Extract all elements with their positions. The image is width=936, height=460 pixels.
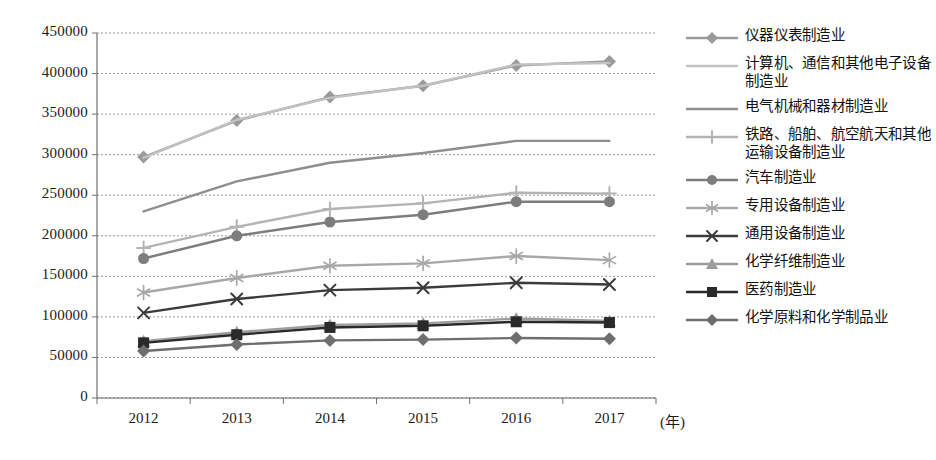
legend-marker-icon <box>686 128 738 146</box>
y-axis-tick-label: 450000 <box>42 23 88 40</box>
legend-label: 仪器仪表制造业 <box>745 26 845 44</box>
legend-item[interactable]: 医药制造业 <box>686 280 936 301</box>
y-axis-tick-label: 250000 <box>42 185 88 202</box>
legend-label: 电气机械和器材制造业 <box>745 97 888 115</box>
x-axis-tick-label: 2014 <box>290 410 370 427</box>
y-axis-ticks <box>92 33 97 398</box>
legend-marker-icon <box>686 100 738 118</box>
legend-item[interactable]: 通用设备制造业 <box>686 224 936 245</box>
legend-label: 铁路、船舶、航空航天和其他运输设备制造业 <box>745 125 936 161</box>
chart-legend: 仪器仪表制造业计算机、通信和其他电子设备制造业电气机械和器材制造业铁路、船舶、航… <box>686 26 936 336</box>
series-5 <box>138 249 616 299</box>
y-axis-tick-label: 100000 <box>42 307 88 324</box>
x-axis-tick-label: 2013 <box>197 410 277 427</box>
legend-marker-icon <box>686 227 738 245</box>
gridlines <box>97 33 656 398</box>
legend-label: 化学原料和化学制品业 <box>745 308 888 326</box>
y-axis-tick-label: 0 <box>80 388 88 405</box>
x-axis-unit-label: (年) <box>660 410 685 431</box>
legend-item[interactable]: 计算机、通信和其他电子设备制造业 <box>686 54 936 90</box>
legend-marker-icon <box>686 29 738 47</box>
legend-marker-icon <box>686 311 738 329</box>
legend-marker-icon <box>686 283 738 301</box>
y-axis-tick-label: 50000 <box>50 347 89 364</box>
series-layer <box>137 55 616 358</box>
legend-label: 计算机、通信和其他电子设备制造业 <box>745 54 936 90</box>
legend-marker-icon <box>686 57 738 75</box>
x-axis-tick-label: 2012 <box>104 410 184 427</box>
x-axis-tick-label: 2016 <box>476 410 556 427</box>
chart-page: 0500001000001500002000002500003000003500… <box>0 0 936 460</box>
legend-item[interactable]: 专用设备制造业 <box>686 196 936 217</box>
x-axis-tick-label: 2017 <box>569 410 649 427</box>
series-1 <box>144 63 610 158</box>
legend-item[interactable]: 汽车制造业 <box>686 168 936 189</box>
x-axis-ticks <box>97 398 656 404</box>
legend-label: 通用设备制造业 <box>745 224 845 242</box>
legend-item[interactable]: 化学纤维制造业 <box>686 252 936 273</box>
x-axis-tick-label: 2015 <box>383 410 463 427</box>
legend-item[interactable]: 铁路、船舶、航空航天和其他运输设备制造业 <box>686 125 936 161</box>
legend-item[interactable]: 仪器仪表制造业 <box>686 26 936 47</box>
legend-marker-icon <box>686 255 738 273</box>
legend-label: 汽车制造业 <box>745 168 817 186</box>
legend-label: 医药制造业 <box>745 280 817 298</box>
legend-item[interactable]: 化学原料和化学制品业 <box>686 308 936 329</box>
legend-marker-icon <box>686 199 738 217</box>
y-axis-tick-label: 300000 <box>42 145 88 162</box>
axes <box>97 33 656 398</box>
y-axis-tick-label: 150000 <box>42 266 88 283</box>
series-3 <box>137 186 616 254</box>
series-0 <box>137 55 616 164</box>
legend-label: 化学纤维制造业 <box>745 252 845 270</box>
series-7 <box>137 312 616 347</box>
legend-item[interactable]: 电气机械和器材制造业 <box>686 97 936 118</box>
legend-marker-icon <box>686 171 738 189</box>
y-axis-tick-label: 200000 <box>42 226 88 243</box>
plot-area: 0500001000001500002000002500003000003500… <box>0 0 680 460</box>
y-axis-tick-label: 400000 <box>42 64 88 81</box>
chart-svg <box>0 0 680 460</box>
legend-label: 专用设备制造业 <box>745 196 845 214</box>
series-8 <box>138 316 615 348</box>
y-axis-tick-label: 350000 <box>42 104 88 121</box>
series-6 <box>138 277 615 318</box>
